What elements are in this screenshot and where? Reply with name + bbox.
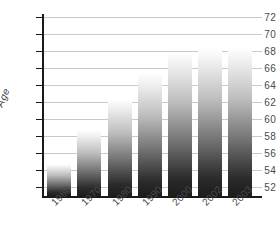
- y-axis-title: Age: [0, 86, 12, 108]
- bar: [138, 73, 162, 196]
- y-tick-mark: [36, 170, 43, 171]
- plot-area: [44, 14, 262, 196]
- y-tick-mark: [36, 17, 43, 18]
- y-tick-mark: [36, 68, 43, 69]
- y-tick-mark: [36, 34, 43, 35]
- y-tick-mark: [36, 136, 43, 137]
- gridline: [44, 17, 262, 18]
- bar: [168, 52, 192, 196]
- gridline: [44, 34, 262, 35]
- y-tick-mark: [36, 119, 43, 120]
- y-tick-mark: [36, 102, 43, 103]
- bar: [198, 48, 222, 196]
- y-tick-mark: [36, 153, 43, 154]
- y-tick-mark: [36, 51, 43, 52]
- bar: [108, 99, 132, 196]
- bar: [228, 47, 252, 196]
- y-tick-mark: [36, 85, 43, 86]
- y-tick-mark: [36, 187, 43, 188]
- bar-chart-figure: Age 5254565860626466687072 1960197019801…: [0, 0, 276, 244]
